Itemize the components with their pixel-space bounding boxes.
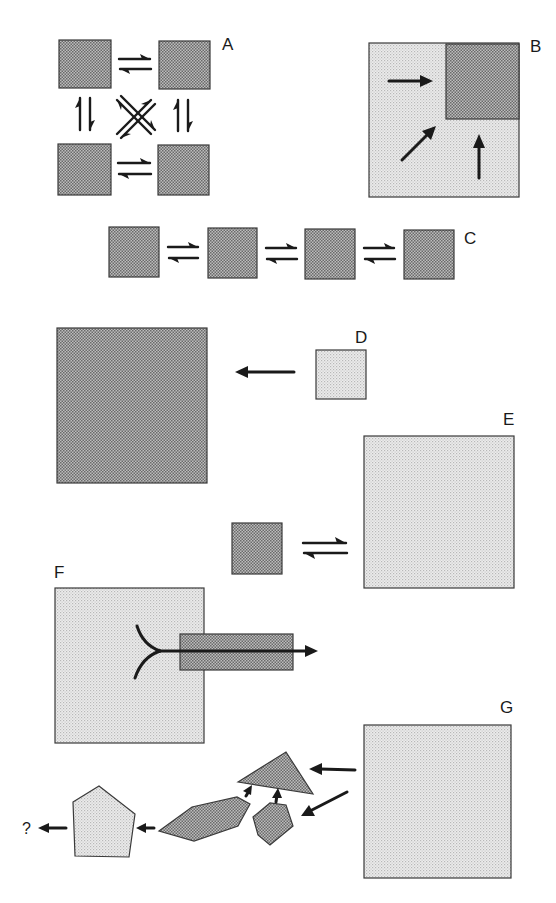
panel-e: E <box>232 410 514 588</box>
panel-g-label: G <box>500 698 513 717</box>
panel-d: D <box>57 328 367 483</box>
panel-d-label: D <box>355 328 367 347</box>
panel-c-label: C <box>464 229 476 248</box>
arrow-left-small-icon <box>136 823 154 833</box>
arrow-left-icon <box>235 366 294 378</box>
panel-f: F <box>54 563 318 743</box>
panel-a-square-top-left <box>59 40 111 88</box>
equilibrium-arrow-icon <box>364 243 395 264</box>
panel-c-square-4 <box>404 230 454 279</box>
panel-g-pentagon-aggregate <box>73 786 135 857</box>
panel-e-large-light-square <box>364 436 514 588</box>
panel-d-small-light-square <box>316 350 366 399</box>
equilibrium-arrow-icon <box>266 243 297 264</box>
arrow-diagonal-icon <box>301 792 347 816</box>
panel-a-label: A <box>222 35 234 54</box>
panel-b-nucleus-square <box>446 44 519 119</box>
panel-c-square-1 <box>109 227 159 277</box>
panel-a: A <box>58 35 234 195</box>
aggregation-diagram: A B <box>0 0 556 903</box>
panel-c-square-2 <box>208 228 257 278</box>
equilibrium-arrow-icon <box>303 537 347 559</box>
panel-g-small-polygon-fragment <box>253 803 293 845</box>
panel-b: B <box>369 37 541 197</box>
crossed-equilibrium-arrows-icon <box>117 96 155 138</box>
equilibrium-arrow-vertical-icon <box>173 100 193 131</box>
equilibrium-arrow-icon <box>168 242 198 263</box>
arrow-up-small-icon <box>243 785 252 796</box>
panel-g-large-light-square <box>364 725 511 878</box>
panel-f-label: F <box>54 563 64 582</box>
panel-d-large-dark-square <box>57 328 207 483</box>
panel-b-label: B <box>530 37 541 56</box>
panel-c-square-3 <box>305 229 355 279</box>
panel-c: C <box>109 227 476 279</box>
unknown-outcome-label: ? <box>22 820 31 837</box>
arrow-left-icon <box>38 823 66 833</box>
panel-e-label: E <box>503 410 514 429</box>
arrow-left-icon <box>309 763 355 775</box>
panel-g-elongated-fragment <box>159 797 250 841</box>
equilibrium-arrow-icon <box>118 158 151 179</box>
panel-a-square-top-right <box>159 41 210 89</box>
panel-a-square-bottom-left <box>58 144 111 195</box>
panel-e-small-dark-square <box>232 523 282 574</box>
arrow-up-small-icon <box>272 788 282 802</box>
panel-a-square-bottom-right <box>158 145 209 195</box>
equilibrium-arrow-icon <box>119 54 151 74</box>
equilibrium-arrow-vertical-icon <box>75 98 95 130</box>
